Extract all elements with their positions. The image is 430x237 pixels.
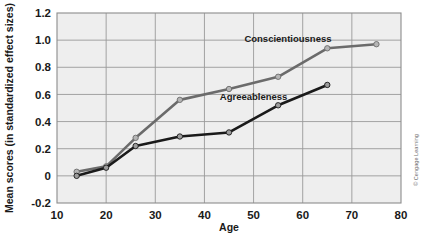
x-axis-title: Age [219,221,239,233]
y-tick-label: 0.2 [35,143,51,155]
data-point-marker [133,135,138,140]
x-tick-label: 20 [100,209,113,221]
plot-background [57,13,401,203]
copyright-credit: © Cengage Learning [413,134,419,186]
data-point-marker [133,143,138,148]
y-tick-label: 1.0 [35,34,51,46]
y-tick-label: -0.2 [31,197,51,209]
data-point-marker [275,103,280,108]
x-tick-label: 50 [247,209,260,221]
data-point-marker [275,74,280,79]
data-point-marker [374,42,379,47]
series-label-agreeableness: Agreeableness [220,91,288,102]
data-point-marker [103,165,108,170]
y-tick-label: 1.2 [35,7,51,19]
data-point-marker [325,82,330,87]
x-tick-label: 60 [296,209,309,221]
x-tick-label: 40 [198,209,211,221]
x-tick-label: 80 [395,209,408,221]
y-tick-label: 0 [45,170,51,182]
y-tick-label: 0.4 [35,116,52,128]
line-chart-canvas: 1020304050607080 -0.200.20.40.60.81.01.2… [0,0,430,237]
chart-figure: 1020304050607080 -0.200.20.40.60.81.01.2… [0,0,430,237]
data-point-marker [325,46,330,51]
y-axis-title: Mean scores (in standardized effect size… [3,3,15,213]
data-point-marker [74,173,79,178]
x-tick-label: 30 [149,209,162,221]
x-tick-label: 70 [345,209,358,221]
y-tick-label: 0.6 [35,89,51,101]
y-tick-label: 0.8 [35,61,52,73]
data-point-marker [177,134,182,139]
data-point-marker [177,97,182,102]
data-point-marker [226,130,231,135]
series-label-conscientiousness: Conscientiousness [244,33,331,44]
x-tick-label: 10 [51,209,64,221]
